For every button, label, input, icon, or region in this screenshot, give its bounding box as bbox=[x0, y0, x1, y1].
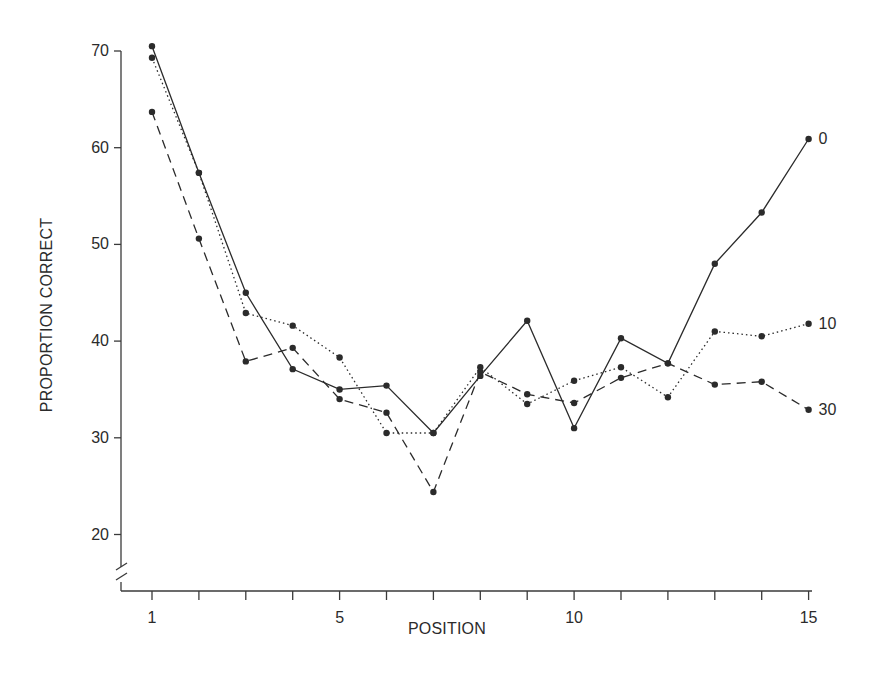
data-point bbox=[712, 328, 718, 334]
data-point bbox=[383, 409, 389, 415]
x-tick-label: 15 bbox=[800, 609, 818, 627]
data-point bbox=[290, 345, 296, 351]
data-point bbox=[665, 394, 671, 400]
data-point bbox=[196, 235, 202, 241]
data-point bbox=[243, 290, 249, 296]
y-tick-label: 30 bbox=[91, 429, 109, 447]
x-tick-label: 1 bbox=[148, 609, 157, 627]
data-point bbox=[149, 109, 155, 115]
axes bbox=[114, 51, 812, 600]
data-point bbox=[243, 358, 249, 364]
data-point bbox=[571, 425, 577, 431]
data-point bbox=[290, 366, 296, 372]
data-point bbox=[618, 375, 624, 381]
data-point bbox=[290, 322, 296, 328]
y-tick-label: 70 bbox=[91, 42, 109, 60]
y-tick-label: 20 bbox=[91, 526, 109, 544]
data-point bbox=[336, 386, 342, 392]
data-point bbox=[383, 382, 389, 388]
series-label-30: 30 bbox=[819, 401, 837, 419]
series-line-30 bbox=[152, 112, 809, 492]
data-point bbox=[805, 320, 811, 326]
data-point bbox=[336, 354, 342, 360]
series-label-0: 0 bbox=[819, 130, 828, 148]
x-tick-label: 5 bbox=[335, 609, 344, 627]
x-axis-label: POSITION bbox=[408, 620, 486, 638]
y-axis-label: PROPORTION CORRECT bbox=[38, 218, 56, 412]
data-point bbox=[524, 391, 530, 397]
data-point bbox=[571, 400, 577, 406]
data-point bbox=[712, 261, 718, 267]
data-point bbox=[336, 396, 342, 402]
y-tick-label: 40 bbox=[91, 332, 109, 350]
data-point bbox=[196, 170, 202, 176]
data-point bbox=[524, 401, 530, 407]
data-point bbox=[759, 209, 765, 215]
data-point bbox=[477, 369, 483, 375]
data-point bbox=[618, 364, 624, 370]
data-point bbox=[712, 381, 718, 387]
data-point bbox=[430, 489, 436, 495]
data-point bbox=[149, 55, 155, 61]
data-point bbox=[805, 407, 811, 413]
data-point bbox=[805, 136, 811, 142]
data-point bbox=[665, 360, 671, 366]
data-point bbox=[383, 430, 389, 436]
axis-break-mark bbox=[116, 573, 127, 580]
data-point bbox=[759, 333, 765, 339]
data-point bbox=[524, 318, 530, 324]
series-lines bbox=[152, 46, 809, 492]
line-chart bbox=[0, 0, 877, 694]
data-point bbox=[618, 335, 624, 341]
data-point bbox=[759, 379, 765, 385]
x-tick-label: 10 bbox=[565, 609, 583, 627]
series-label-10: 10 bbox=[819, 315, 837, 333]
data-point bbox=[243, 310, 249, 316]
data-point bbox=[149, 43, 155, 49]
y-tick-label: 60 bbox=[91, 139, 109, 157]
data-point bbox=[571, 378, 577, 384]
data-point bbox=[430, 430, 436, 436]
y-tick-label: 50 bbox=[91, 235, 109, 253]
